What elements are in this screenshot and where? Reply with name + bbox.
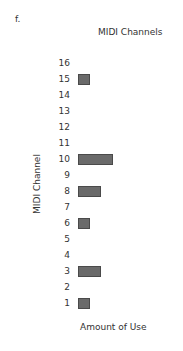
y-tick-label: 2 [52,282,70,292]
y-tick-label: 8 [52,186,70,196]
y-tick-label: 12 [52,122,70,132]
bar-row: 9 [52,167,70,183]
y-axis-label: MIDI Channel [32,154,42,214]
bar-row: 10 [52,151,70,167]
y-tick-label: 5 [52,234,70,244]
chart-title: MIDI Channels [0,27,183,37]
y-tick-label: 11 [52,138,70,148]
bar-row: 1 [52,295,70,311]
bar-row: 15 [52,71,70,87]
bar-row: 13 [52,103,70,119]
bar-row: 12 [52,119,70,135]
y-tick-label: 4 [52,250,70,260]
bar-row: 11 [52,135,70,151]
bar [78,74,90,85]
y-tick-label: 13 [52,106,70,116]
x-axis-label: Amount of Use [80,322,147,332]
y-tick-label: 1 [52,298,70,308]
bar-row: 2 [52,279,70,295]
bar-row: 3 [52,263,70,279]
figure-label: f. [15,14,20,24]
y-tick-label: 10 [52,154,70,164]
y-tick-label: 9 [52,170,70,180]
y-tick-label: 6 [52,218,70,228]
bar [78,186,101,197]
bar-row: 7 [52,199,70,215]
y-tick-label: 7 [52,202,70,212]
bar [78,266,101,277]
bar-row: 8 [52,183,70,199]
bar-row: 4 [52,247,70,263]
bar [78,298,90,309]
y-tick-label: 3 [52,266,70,276]
y-tick-label: 16 [52,58,70,68]
bar-row: 6 [52,215,70,231]
bar-row: 5 [52,231,70,247]
y-tick-label: 14 [52,90,70,100]
y-tick-label: 15 [52,74,70,84]
bar-row: 14 [52,87,70,103]
bar [78,154,113,165]
bar-row: 16 [52,55,70,71]
bar [78,218,90,229]
